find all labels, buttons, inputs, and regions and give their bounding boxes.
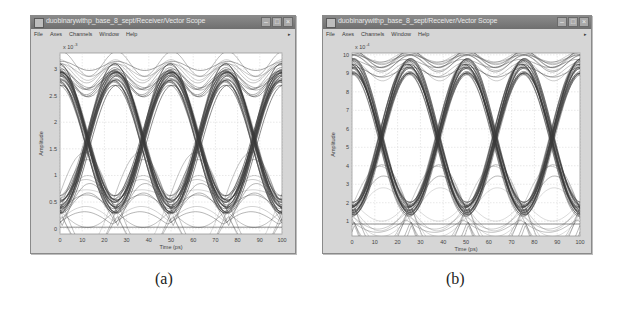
eye-diagram-plot-b: 010203040506070809010012345678910Time (p… <box>323 39 591 253</box>
x-axis-label: Time (ps) <box>454 246 477 252</box>
x-tick-label: 40 <box>146 237 152 243</box>
menu-window[interactable]: Window <box>99 29 119 39</box>
y-tick-label: 4 <box>346 163 349 169</box>
menu-file[interactable]: File <box>326 29 335 39</box>
x-tick-label: 100 <box>277 237 286 243</box>
window-title: duobinarywithp_base_8_sept/Receiver/Vect… <box>338 17 497 24</box>
y-tick-label: 6 <box>346 126 349 132</box>
x-tick-label: 70 <box>509 239 515 245</box>
x-tick-label: 90 <box>554 239 560 245</box>
eye-diagram-plot-a: 010203040506070809010000.511.522.53Time … <box>31 39 295 253</box>
menu-file[interactable]: File <box>34 29 43 39</box>
menu-channels[interactable]: Channels <box>361 29 384 39</box>
x-tick-label: 60 <box>486 239 492 245</box>
x-tick-label: 20 <box>395 239 401 245</box>
x-tick-label: 0 <box>350 239 353 245</box>
menu-overflow-icon[interactable]: ▸ <box>288 29 291 39</box>
x-tick-label: 80 <box>235 237 241 243</box>
y-tick-label: 1 <box>54 172 57 178</box>
x-tick-label: 80 <box>531 239 537 245</box>
y-tick-label: 9 <box>346 70 349 76</box>
y-tick-label: 1 <box>346 218 349 224</box>
menu-bar: File Axes Channels Window Help ▸ <box>323 29 591 39</box>
x-tick-label: 50 <box>463 239 469 245</box>
caption-a: (a) <box>155 270 173 288</box>
y-tick-label: 0 <box>54 226 57 232</box>
minimize-button[interactable]: – <box>557 17 567 27</box>
x-tick-label: 70 <box>212 237 218 243</box>
x-tick-label: 0 <box>58 237 61 243</box>
y-axis-label: Amplitude <box>330 132 336 156</box>
menu-window[interactable]: Window <box>391 29 411 39</box>
menu-bar: File Axes Channels Window Help ▸ <box>31 29 295 39</box>
y-scale-exponent: x 10 <box>63 44 73 50</box>
y-scale-exponent-power: -3 <box>74 42 78 47</box>
y-scale-exponent: x 10 <box>355 44 365 50</box>
x-tick-label: 100 <box>575 239 584 245</box>
x-tick-label: 40 <box>440 239 446 245</box>
maximize-button[interactable]: □ <box>568 17 578 27</box>
y-tick-label: 10 <box>343 52 349 58</box>
x-tick-label: 10 <box>372 239 378 245</box>
y-tick-label: 2 <box>346 200 349 206</box>
x-tick-label: 50 <box>168 237 174 243</box>
y-tick-label: 3 <box>346 181 349 187</box>
x-tick-label: 30 <box>417 239 423 245</box>
y-axis-label: Amplitude <box>38 131 44 155</box>
menu-axes[interactable]: Axes <box>342 29 354 39</box>
maximize-button[interactable]: □ <box>272 17 282 27</box>
caption-b: (b) <box>446 270 465 288</box>
scope-window-a: duobinarywithp_base_8_sept/Receiver/Vect… <box>30 15 296 254</box>
close-button[interactable]: × <box>283 17 293 27</box>
x-tick-label: 90 <box>257 237 263 243</box>
y-tick-label: 5 <box>346 144 349 150</box>
app-icon <box>326 18 336 28</box>
menu-help[interactable]: Help <box>418 29 429 39</box>
y-scale-exponent-power: -4 <box>366 42 370 47</box>
y-tick-label: 0.5 <box>49 199 57 205</box>
y-tick-label: 7 <box>346 107 349 113</box>
y-tick-label: 2 <box>54 119 57 125</box>
x-tick-label: 10 <box>79 237 85 243</box>
menu-axes[interactable]: Axes <box>50 29 62 39</box>
scope-window-b: duobinarywithp_base_8_sept/Receiver/Vect… <box>322 15 592 254</box>
x-axis-label: Time (ps) <box>159 244 182 250</box>
close-button[interactable]: × <box>579 17 589 27</box>
y-tick-label: 8 <box>346 89 349 95</box>
menu-help[interactable]: Help <box>126 29 137 39</box>
menu-channels[interactable]: Channels <box>69 29 92 39</box>
app-icon <box>34 18 44 28</box>
y-tick-label: 2.5 <box>49 93 57 99</box>
menu-overflow-icon[interactable]: ▸ <box>584 29 587 39</box>
x-tick-label: 30 <box>124 237 130 243</box>
window-title: duobinarywithp_base_8_sept/Receiver/Vect… <box>46 17 205 24</box>
y-tick-label: 3 <box>54 66 57 72</box>
title-bar[interactable]: duobinarywithp_base_8_sept/Receiver/Vect… <box>31 16 295 29</box>
title-bar[interactable]: duobinarywithp_base_8_sept/Receiver/Vect… <box>323 16 591 29</box>
x-tick-label: 60 <box>190 237 196 243</box>
y-tick-label: 1.5 <box>49 146 57 152</box>
minimize-button[interactable]: – <box>261 17 271 27</box>
x-tick-label: 20 <box>101 237 107 243</box>
